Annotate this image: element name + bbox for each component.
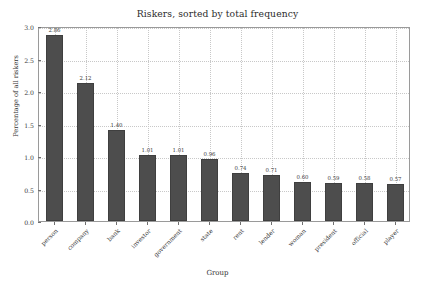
chart-figure: Riskers, sorted by total frequency Perce… [0, 0, 435, 291]
bar-item[interactable]: 0.96 [201, 26, 218, 221]
bar-rect[interactable] [77, 83, 94, 221]
bar-value-label: 0.74 [234, 166, 246, 171]
x-axis-tick-labels: personcompanybankinvestorgovernmentstate… [38, 222, 410, 272]
chart-title: Riskers, sorted by total frequency [0, 8, 435, 19]
x-tick-mark [116, 222, 117, 225]
y-tick-mark [38, 92, 41, 93]
bar-rect[interactable] [139, 155, 156, 221]
y-tick-mark [38, 125, 41, 126]
bar-value-label: 1.01 [141, 148, 153, 153]
bar-item[interactable]: 1.01 [139, 26, 156, 221]
bar-value-label: 1.40 [110, 123, 122, 128]
bar-value-label: 0.71 [265, 168, 277, 173]
y-tick-label: 0.0 [24, 219, 34, 226]
bar-rect[interactable] [232, 173, 249, 221]
x-tick-mark [271, 222, 272, 225]
bar-series: 2.862.121.401.011.010.960.740.710.600.59… [39, 28, 409, 221]
y-tick-mark [38, 27, 41, 28]
bar-rect[interactable] [294, 182, 311, 221]
x-tick-mark [178, 222, 179, 225]
x-tick-mark [302, 222, 303, 225]
bar-item[interactable]: 0.60 [294, 26, 311, 221]
y-tick-label: 2.5 [24, 56, 34, 63]
bar-rect[interactable] [325, 183, 342, 221]
bar-rect[interactable] [170, 155, 187, 221]
y-tick-mark [38, 190, 41, 191]
y-tick-label: 3.0 [24, 24, 34, 31]
x-tick-mark [85, 222, 86, 225]
bar-item[interactable]: 2.86 [46, 26, 63, 221]
bar-rect[interactable] [263, 175, 280, 221]
y-tick-label: 0.5 [24, 186, 34, 193]
x-tick-mark [333, 222, 334, 225]
plot-area: 2.862.121.401.011.010.960.740.710.600.59… [38, 27, 410, 222]
x-tick-mark [147, 222, 148, 225]
y-tick-label: 2.0 [24, 89, 34, 96]
bar-rect[interactable] [108, 130, 125, 221]
bar-rect[interactable] [356, 183, 373, 221]
y-tick-mark [38, 60, 41, 61]
y-tick-label: 1.0 [24, 154, 34, 161]
bar-value-label: 0.96 [203, 152, 215, 157]
bar-item[interactable]: 0.59 [325, 26, 342, 221]
bar-rect[interactable] [46, 35, 63, 221]
bar-rect[interactable] [201, 159, 218, 221]
bar-value-label: 1.01 [172, 148, 184, 153]
bar-item[interactable]: 0.71 [263, 26, 280, 221]
bar-value-label: 2.12 [79, 76, 91, 81]
bar-value-label: 0.59 [327, 176, 339, 181]
x-tick-mark [54, 222, 55, 225]
x-axis-label: Group [0, 269, 435, 277]
y-axis-tick-labels: 0.00.51.01.52.02.53.0 [12, 27, 34, 222]
bar-value-label: 0.57 [389, 177, 401, 182]
x-tick-mark [240, 222, 241, 225]
y-tick-label: 1.5 [24, 121, 34, 128]
bar-item[interactable]: 0.57 [387, 26, 404, 221]
bar-rect[interactable] [387, 184, 404, 221]
x-tick-mark [209, 222, 210, 225]
bar-value-label: 0.60 [296, 175, 308, 180]
bar-item[interactable]: 0.74 [232, 26, 249, 221]
bar-item[interactable]: 1.01 [170, 26, 187, 221]
bar-item[interactable]: 1.40 [108, 26, 125, 221]
y-tick-mark [38, 157, 41, 158]
x-tick-mark [395, 222, 396, 225]
bar-item[interactable]: 2.12 [77, 26, 94, 221]
x-tick-mark [364, 222, 365, 225]
bar-item[interactable]: 0.58 [356, 26, 373, 221]
y-tick-mark [38, 222, 41, 223]
bar-value-label: 0.58 [358, 176, 370, 181]
bar-value-label: 2.86 [48, 28, 60, 33]
